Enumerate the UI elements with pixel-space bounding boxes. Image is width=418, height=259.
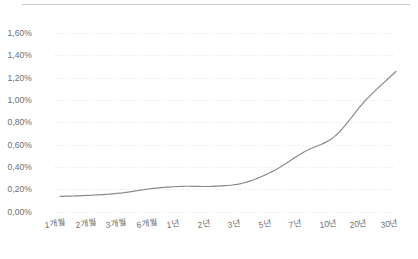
x-axis: 1개월2개월3개월6개월1년2년3년5년7년10년20년30년 <box>0 216 418 256</box>
plot-area: 0,00%0,20%0,40%0,60%0,80%1,00%1,20%1,40%… <box>0 0 418 259</box>
x-tick-label: 2년 <box>197 218 211 230</box>
x-tick-label: 6개월 <box>136 217 158 230</box>
x-tick-label: 3개월 <box>105 217 127 230</box>
x-tick-label: 10년 <box>319 218 338 230</box>
x-tick-label: 1년 <box>166 218 180 230</box>
x-tick-label: 20년 <box>349 218 368 230</box>
series-line-수익률 <box>60 71 396 196</box>
x-tick-label: 5년 <box>258 218 272 230</box>
yield-curve-chart: 0,00%0,20%0,40%0,60%0,80%1,00%1,20%1,40%… <box>0 0 418 259</box>
x-tick-label: 1개월 <box>44 217 66 230</box>
x-tick-label: 30년 <box>380 218 399 230</box>
x-tick-label: 7년 <box>288 218 302 230</box>
x-tick-label: 3년 <box>227 218 241 230</box>
x-tick-label: 2개월 <box>75 217 97 230</box>
